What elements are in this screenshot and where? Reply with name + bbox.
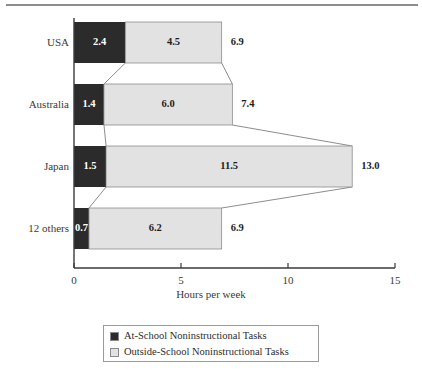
segment-label-outside-school-2: 11.5 — [106, 161, 352, 172]
legend-label-at-school: At-School Noninstructional Tasks — [124, 331, 267, 342]
bar-segments — [74, 22, 352, 249]
segment-label-outside-school-1: 6.0 — [104, 99, 232, 110]
legend-item-at-school: At-School Noninstructional Tasks — [110, 328, 267, 344]
x-tick-label-5: 5 — [161, 275, 201, 286]
legend-label-outside-school: Outside-School Noninstructional Tasks — [124, 347, 289, 358]
x-tick-label-0: 0 — [54, 275, 94, 286]
segment-label-outside-school-0: 4.5 — [125, 37, 221, 48]
total-label-2: 13.0 — [361, 161, 379, 172]
category-label-usa: USA — [0, 37, 69, 48]
segment-label-at-school-3: 0.7 — [74, 223, 89, 234]
category-label-australia: Australia — [0, 99, 69, 110]
plot-area: USAAustraliaJapan12 others 2.44.51.46.01… — [0, 0, 422, 377]
segment-label-at-school-0: 2.4 — [74, 37, 125, 48]
total-label-3: 6.9 — [231, 223, 244, 234]
chart-figure: USAAustraliaJapan12 others 2.44.51.46.01… — [0, 0, 422, 377]
x-tick-label-15: 15 — [375, 275, 415, 286]
segment-label-at-school-1: 1.4 — [74, 99, 104, 110]
legend-swatch-at-school — [110, 332, 119, 341]
segment-label-outside-school-3: 6.2 — [89, 223, 222, 234]
x-tick-label-10: 10 — [268, 275, 308, 286]
legend-swatch-outside-school — [110, 348, 119, 357]
chart-legend: At-School Noninstructional Tasks Outside… — [103, 325, 319, 362]
total-label-0: 6.9 — [231, 37, 244, 48]
x-axis-title: Hours per week — [0, 289, 422, 300]
segment-label-at-school-2: 1.5 — [74, 161, 106, 172]
category-label-japan: Japan — [0, 161, 69, 172]
legend-item-outside-school: Outside-School Noninstructional Tasks — [110, 344, 289, 360]
total-label-1: 7.4 — [241, 99, 254, 110]
chart-canvas — [0, 0, 422, 377]
category-label-12-others: 12 others — [0, 223, 69, 234]
